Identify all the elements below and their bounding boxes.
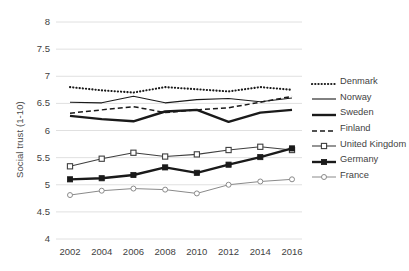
legend-item-label: Norway <box>340 93 372 102</box>
series-germany <box>67 146 294 182</box>
series-sweden <box>70 110 292 122</box>
data-point-marker <box>226 162 231 167</box>
data-point-marker <box>163 187 168 192</box>
series-line <box>70 148 292 179</box>
data-point-marker <box>290 177 295 182</box>
legend-swatch-icon <box>311 138 337 150</box>
series-denmark <box>70 87 292 92</box>
data-point-marker <box>163 154 168 159</box>
data-point-marker <box>194 170 199 175</box>
data-point-marker <box>131 150 136 155</box>
data-point-marker <box>131 186 136 191</box>
legend-item-label: Germany <box>340 155 378 164</box>
data-point-marker <box>226 147 231 152</box>
data-point-marker <box>131 172 136 177</box>
legend-swatch-icon <box>311 169 337 181</box>
data-point-marker <box>258 154 263 159</box>
legend-item-france[interactable]: France <box>311 168 409 184</box>
legend-item-label: France <box>340 171 369 180</box>
data-point-marker <box>258 144 263 149</box>
legend-item-germany[interactable]: Germany <box>311 152 409 168</box>
legend-swatch-icon <box>311 154 337 166</box>
data-point-marker <box>163 165 168 170</box>
legend-marker <box>322 175 327 180</box>
chart-legend: DenmarkNorwaySwedenFinlandUnited Kingdom… <box>311 74 409 183</box>
data-point-marker <box>226 182 231 187</box>
series-line <box>70 96 292 103</box>
legend-marker <box>321 159 326 164</box>
series-norway <box>70 96 292 103</box>
legend-item-sweden[interactable]: Sweden <box>311 105 409 121</box>
legend-item-denmark[interactable]: Denmark <box>311 74 409 90</box>
series-finland <box>70 96 292 113</box>
legend-item-label: United Kingdom <box>340 140 406 149</box>
line-chart: Social trust (1-10) 44.555.566.577.58 20… <box>0 0 409 271</box>
gridlines <box>56 22 302 239</box>
data-point-marker <box>194 152 199 157</box>
legend-item-label: Finland <box>340 124 371 133</box>
data-point-marker <box>99 176 104 181</box>
data-point-marker <box>68 193 73 198</box>
legend-swatch-icon <box>311 76 337 88</box>
legend-item-norway[interactable]: Norway <box>311 90 409 106</box>
legend-swatch-icon <box>311 123 337 135</box>
legend-swatch-icon <box>311 107 337 119</box>
series-line <box>70 96 292 113</box>
legend-item-label: Denmark <box>340 77 378 86</box>
legend-marker <box>321 144 326 149</box>
data-point-marker <box>289 146 294 151</box>
data-point-marker <box>99 156 104 161</box>
legend-swatch-icon <box>311 91 337 103</box>
series-line <box>70 87 292 92</box>
series-line <box>70 110 292 122</box>
data-point-marker <box>194 191 199 196</box>
data-point-marker <box>99 188 104 193</box>
legend-item-finland[interactable]: Finland <box>311 121 409 137</box>
legend-item-label: Sweden <box>340 108 374 117</box>
data-point-marker <box>67 177 72 182</box>
legend-item-united-kingdom[interactable]: United Kingdom <box>311 136 409 152</box>
data-point-marker <box>258 179 263 184</box>
data-point-marker <box>67 164 72 169</box>
